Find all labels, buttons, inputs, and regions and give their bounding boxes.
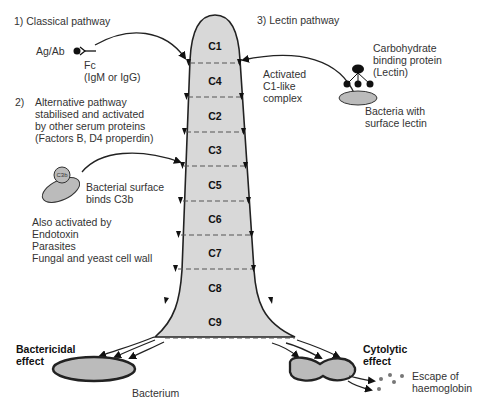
also-activated-4: Fungal and yeast cell wall: [32, 252, 152, 264]
cascade-c6: C6: [195, 213, 235, 225]
cytolytic-label-2: effect: [363, 355, 391, 367]
cascade-c9: C9: [195, 316, 235, 328]
classical-pathway-title: 1) Classical pathway: [14, 15, 110, 27]
alternative-number: 2): [15, 96, 24, 108]
agab-label: Ag/Ab: [36, 45, 65, 57]
lectin-protein-label-2: binding protein: [373, 54, 442, 66]
lectin-protein-icon: [339, 65, 377, 106]
also-activated-1: Also activated by: [32, 216, 111, 228]
alternative-line-2: stabilised and activated: [35, 108, 144, 120]
lectin-protein-label-3: (Lectin): [373, 66, 408, 78]
cascade-c5: C5: [195, 179, 235, 191]
antibody-icon: [74, 47, 97, 55]
also-activated-3: Parasites: [32, 240, 76, 252]
activated-c1-label-1: Activated: [263, 68, 306, 80]
lectin-pathway-title: 3) Lectin pathway: [257, 14, 339, 26]
bacterial-surface-label-1: Bacterial surface: [86, 181, 164, 193]
bactericidal-arrows: [100, 337, 164, 358]
escape-label-1: Escape of: [412, 370, 459, 382]
fc-subtitle: (IgM or IgG): [84, 71, 141, 83]
classical-arrow: [95, 33, 185, 58]
cytolytic-label-1: Cytolytic: [363, 343, 407, 355]
bactericidal-label-2: effect: [16, 355, 44, 367]
cascade-c4: C4: [195, 75, 235, 87]
lectin-protein-label-1: Carbohydrate: [373, 42, 437, 54]
bactericidal-label-1: Bactericidal: [16, 343, 76, 355]
cascade-c3: C3: [195, 144, 235, 156]
fc-label: Fc: [84, 59, 96, 71]
lectin-bacteria-label-1: Bacteria with: [365, 105, 425, 117]
activated-c1-label-3: complex: [263, 92, 302, 104]
cascade-c7: C7: [195, 247, 235, 259]
also-activated-2: Endotoxin: [32, 228, 79, 240]
complement-cascade-diagram: C3b 1) Classical pathway Ag/Ab Fc (IgM o…: [0, 0, 483, 410]
alternative-line-4: (Factors B, D4 properdin): [35, 132, 153, 144]
lectin-bacteria-label-2: surface lectin: [365, 117, 427, 129]
haemoglobin-arrows: [348, 376, 374, 390]
alternative-line-3: by other serum proteins: [35, 120, 145, 132]
bacterium-shape: [53, 357, 135, 381]
svg-text:C3b: C3b: [56, 172, 68, 178]
alternative-line-1: Alternative pathway: [35, 96, 127, 108]
escape-label-2: haemoglobin: [412, 382, 472, 394]
cytolytic-arrows: [272, 340, 339, 358]
haemoglobin-dots: [377, 373, 404, 391]
activated-c1-label-2: C1-like: [263, 80, 296, 92]
cascade-c2: C2: [195, 110, 235, 122]
bacterium-label: Bacterium: [132, 387, 179, 399]
alternative-arrow: [82, 153, 180, 172]
c3b-bacterium-icon: C3b: [39, 167, 84, 208]
red-cell-shape: [290, 358, 355, 381]
cascade-c1: C1: [195, 40, 235, 52]
cascade-c8: C8: [195, 282, 235, 294]
bacterial-surface-label-2: binds C3b: [86, 193, 133, 205]
